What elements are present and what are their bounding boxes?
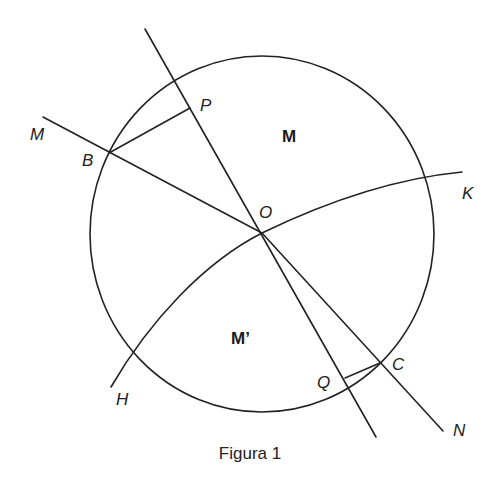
geometry-figure: MBPOKHQCN MM’ Figura 1	[0, 0, 499, 489]
ray-ON	[262, 233, 443, 431]
segment-CQ	[345, 363, 380, 378]
region-M-prime: M’	[231, 329, 250, 348]
label-C: C	[392, 355, 405, 374]
label-M: M	[30, 125, 45, 144]
figure-canvas: MBPOKHQCN MM’ Figura 1	[0, 0, 499, 489]
label-K: K	[462, 184, 474, 203]
lines-group	[43, 29, 443, 437]
region-M: M	[282, 127, 296, 146]
label-P: P	[200, 96, 212, 115]
label-O: O	[259, 203, 272, 222]
label-H: H	[116, 390, 129, 409]
figure-caption: Figura 1	[219, 444, 281, 463]
label-Q: Q	[317, 373, 330, 392]
point-labels-group: MBPOKHQCN	[30, 96, 474, 440]
label-B: B	[82, 151, 93, 170]
label-N: N	[453, 421, 466, 440]
ray-OM	[43, 117, 262, 233]
